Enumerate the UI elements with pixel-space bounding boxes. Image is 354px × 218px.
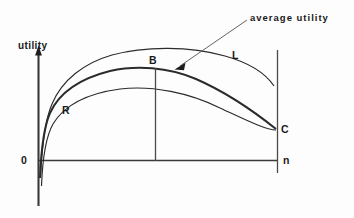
curve-label-C: C: [281, 123, 289, 135]
y-axis-label: utility: [18, 40, 48, 51]
curve-label-L: L: [232, 49, 239, 61]
curve-label-R: R: [62, 104, 70, 116]
curve-label-B: B: [149, 54, 157, 66]
curve-middle-average-utility: [40, 68, 276, 178]
curves-group: [40, 48, 276, 186]
average-utility-callout-label: average utility: [250, 12, 329, 23]
callout-leader-group: [175, 20, 248, 70]
origin-label: 0: [21, 154, 27, 166]
callout-arrowhead-icon: [175, 63, 186, 70]
curve-upper-L: [41, 48, 275, 177]
utility-diagram-figure: utility 0 n B L R C average utility: [0, 0, 354, 218]
x-axis-end-label: n: [283, 154, 289, 166]
diagram-canvas: utility 0 n B L R C average utility: [0, 0, 354, 218]
